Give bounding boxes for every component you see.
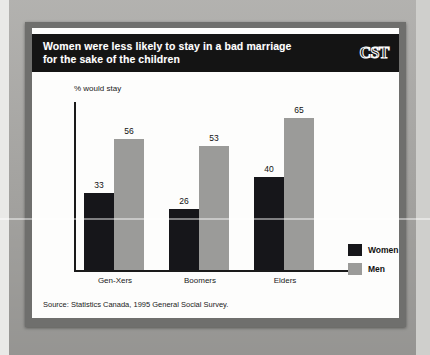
bar-value-label: 65 (284, 105, 314, 115)
bar-fill (169, 209, 199, 270)
bar-fill (199, 146, 229, 270)
bar-value-label: 26 (169, 196, 199, 206)
source-note: Source: Statistics Canada, 1995 General … (43, 300, 228, 309)
bar-group: 3356 (84, 102, 146, 270)
figure-title-line-2: for the sake of the children (43, 53, 359, 66)
x-tick-gen-xers: Gen-Xers (72, 276, 158, 285)
figure-header: Women were less likely to stay in a bad … (32, 34, 399, 72)
chart-legend: WomenMen (348, 244, 399, 282)
bar-value-label: 56 (114, 126, 144, 136)
page-right-margin (416, 0, 430, 355)
figure-title-line-1: Women were less likely to stay in a bad … (43, 40, 359, 53)
legend-swatch (348, 263, 362, 275)
x-tick-elders: Elders (242, 276, 328, 285)
legend-item-women: Women (348, 244, 399, 256)
x-axis-line (74, 270, 348, 272)
x-tick-boomers: Boomers (157, 276, 243, 285)
bar-fill (254, 177, 284, 270)
bar-women-gen-xers: 33 (84, 193, 114, 270)
page-background: Women were less likely to stay in a bad … (0, 0, 430, 355)
y-axis-label: % would stay (74, 84, 121, 93)
bar-value-label: 53 (199, 133, 229, 143)
bar-group: 4065 (254, 102, 316, 270)
figure-inner-panel: Women were less likely to stay in a bad … (32, 28, 399, 318)
cst-logo: CST (359, 44, 399, 62)
bar-value-label: 33 (84, 180, 114, 190)
bar-men-boomers: 53 (199, 146, 229, 270)
figure-title: Women were less likely to stay in a bad … (32, 40, 359, 66)
bar-fill (84, 193, 114, 270)
legend-label: Women (368, 245, 399, 255)
bar-value-label: 40 (254, 164, 284, 174)
bar-women-elders: 40 (254, 177, 284, 270)
legend-swatch (348, 244, 362, 256)
figure-card: Women were less likely to stay in a bad … (25, 22, 406, 327)
legend-item-men: Men (348, 263, 399, 275)
bars-container: 335626534065 (74, 102, 328, 270)
bar-fill (284, 118, 314, 270)
page-left-margin (0, 0, 9, 355)
bar-fill (114, 139, 144, 270)
bar-men-gen-xers: 56 (114, 139, 144, 270)
bar-men-elders: 65 (284, 118, 314, 270)
chart-area: % would stay 335626534065 Gen-XersBoomer… (32, 72, 399, 318)
bar-women-boomers: 26 (169, 209, 199, 270)
bar-group: 2653 (169, 102, 231, 270)
legend-label: Men (368, 264, 385, 274)
